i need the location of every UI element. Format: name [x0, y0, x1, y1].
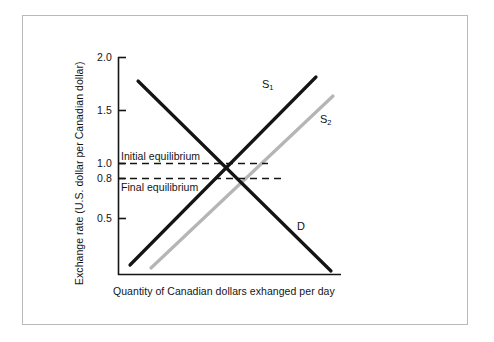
- plot-area: 2.0 1.5 1.0 0.8 0.5 Exchange rate (U.S. …: [0, 0, 494, 342]
- curve-label-d: D: [297, 220, 305, 232]
- supply-curve-s1: [130, 77, 316, 265]
- figure: 2.0 1.5 1.0 0.8 0.5 Exchange rate (U.S. …: [0, 0, 494, 342]
- curve-label-s1-subscript: 1: [269, 83, 273, 92]
- curve-label-s2: S2: [320, 113, 332, 125]
- initial-equilibrium-label: Initial equilibrium: [121, 150, 200, 162]
- x-axis-title: Quantity of Canadian dollars exhanged pe…: [113, 285, 335, 297]
- curve-label-s1: S1: [262, 78, 274, 90]
- curve-label-s2-subscript: 2: [327, 118, 331, 127]
- y-axis-title: Exchange rate (U.S. dollar per Canadian …: [73, 61, 85, 285]
- demand-curve-d: [138, 81, 331, 271]
- final-equilibrium-label: Final equilibrium: [121, 181, 198, 193]
- curve-label-d-text: D: [297, 220, 305, 232]
